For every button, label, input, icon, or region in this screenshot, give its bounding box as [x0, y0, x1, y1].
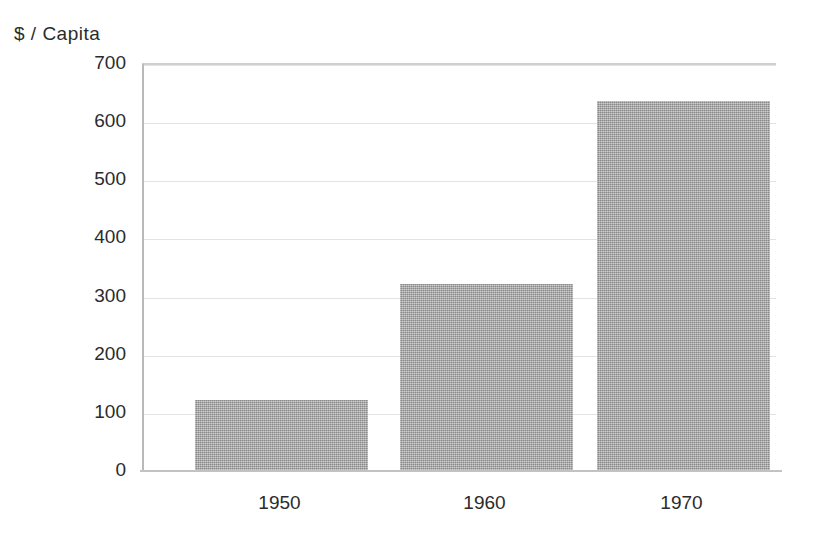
x-axis-tick-label: 1950: [258, 492, 300, 514]
gridline: [144, 65, 776, 66]
plot-area: [142, 63, 776, 470]
y-axis-tick-label: 700: [8, 52, 126, 74]
y-axis-tick-label: 100: [8, 401, 126, 423]
y-axis-tick-label: 400: [8, 226, 126, 248]
y-axis-tick-label: 0: [8, 459, 126, 481]
y-axis-tick-label: 300: [8, 285, 126, 307]
bar: [597, 101, 770, 470]
bar: [400, 284, 573, 470]
x-axis-line: [140, 470, 782, 472]
x-axis-tick-labels: 195019601970: [0, 492, 829, 526]
x-axis-tick-label: 1970: [660, 492, 702, 514]
bar-chart-figure: $ / Capita 0100200300400500600700 195019…: [0, 0, 829, 544]
y-axis-tick-label: 500: [8, 168, 126, 190]
y-axis-tick-labels: 0100200300400500600700: [0, 0, 126, 544]
y-axis-tick-label: 200: [8, 343, 126, 365]
bar: [195, 400, 368, 470]
x-axis-tick-label: 1960: [463, 492, 505, 514]
y-axis-tick-label: 600: [8, 110, 126, 132]
